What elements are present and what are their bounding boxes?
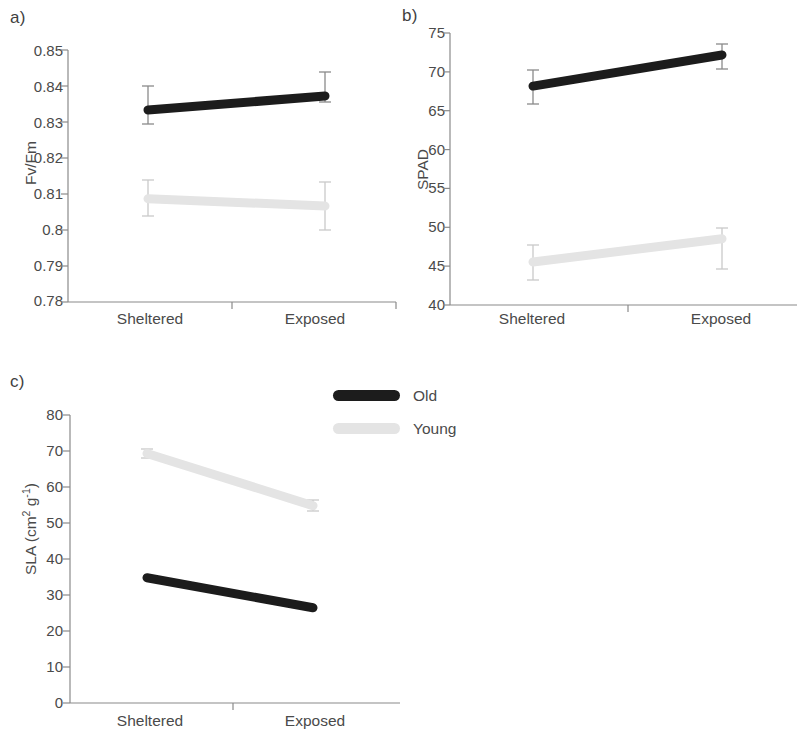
panel-a-axes: [61, 50, 396, 309]
panel-c-plot: [0, 360, 420, 741]
panel-b: b) SPAD 75 70 65 60 55 50 45 40 Sheltere…: [400, 0, 799, 340]
panel-a-plot: [0, 0, 400, 340]
legend-label-young: Young: [413, 420, 456, 438]
legend-label-old: Old: [413, 387, 437, 405]
panel-a: a) Fv/Fm 0.85 0.84 0.83 0.82 0.81 0.8 0.…: [0, 0, 400, 340]
legend-swatch-old: [333, 390, 400, 401]
panel-a-series-old: [142, 72, 331, 124]
figure-root: a) Fv/Fm 0.85 0.84 0.83 0.82 0.81 0.8 0.…: [0, 0, 799, 741]
panel-b-series-old: [527, 44, 728, 104]
panel-b-series-young: [527, 228, 728, 280]
panel-a-series-young: [142, 180, 331, 230]
panel-c-axes: [63, 415, 400, 710]
legend-swatch-young: [333, 423, 400, 434]
panel-c-series-old: [147, 575, 313, 610]
panel-c: c) SLA (cm2 g-1) 80 70 60 50 40 30 20 10…: [0, 360, 420, 741]
panel-c-series-young: [141, 449, 319, 511]
panel-b-plot: [400, 0, 799, 340]
